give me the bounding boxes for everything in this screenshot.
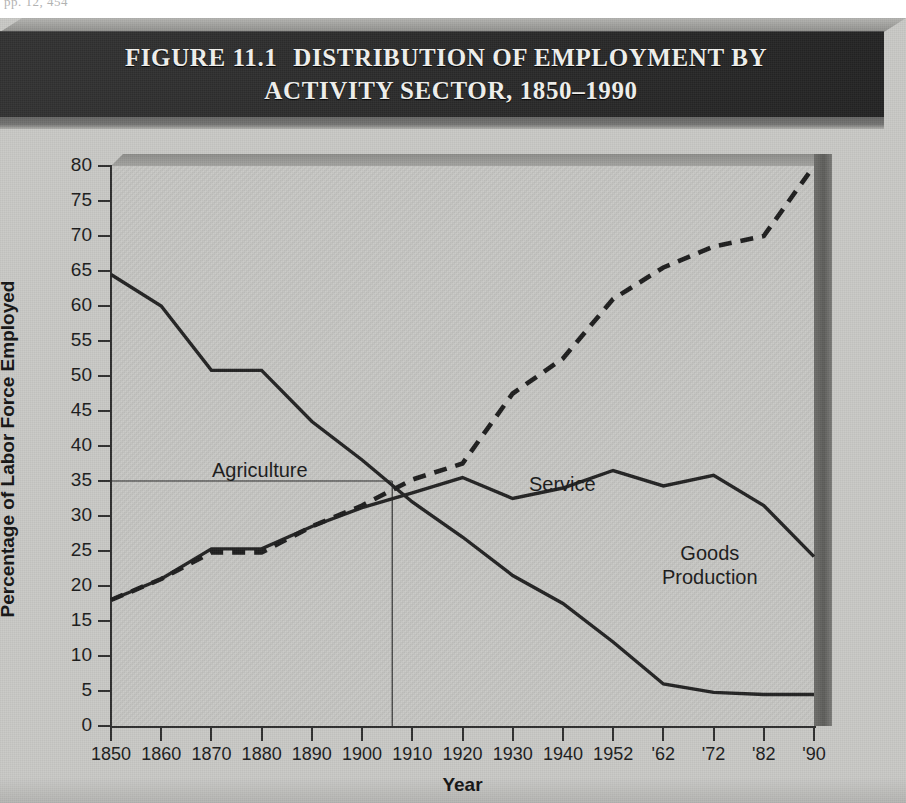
series-label-goods-line2: Production xyxy=(662,565,758,589)
chart-area: 05101520253035404550556065707580 1850186… xyxy=(14,138,890,778)
figure-title-bar: FIGURE 11.1DISTRIBUTION OF EMPLOYMENT BY… xyxy=(0,18,906,130)
series-line-agriculture xyxy=(111,275,814,695)
series-label-service: Service xyxy=(529,472,596,496)
page-margin-note: pp. 12, 454 xyxy=(4,0,68,10)
series-lines xyxy=(14,138,890,778)
figure-title-line-2: ACTIVITY SECTOR, 1850–1990 xyxy=(0,74,884,107)
series-label-goods-production: Goods Production xyxy=(662,541,758,589)
series-line-service xyxy=(111,166,814,600)
title-bevel xyxy=(0,18,906,32)
figure-number: FIGURE 11.1 xyxy=(125,44,277,71)
figure-title-line-1: DISTRIBUTION OF EMPLOYMENT BY xyxy=(293,44,767,71)
series-label-goods-line1: Goods xyxy=(662,541,758,565)
figure-panel: FIGURE 11.1DISTRIBUTION OF EMPLOYMENT BY… xyxy=(0,18,906,803)
title-drop-shadow xyxy=(0,117,884,129)
series-label-agriculture: Agriculture xyxy=(212,458,308,482)
title-slab: FIGURE 11.1DISTRIBUTION OF EMPLOYMENT BY… xyxy=(0,31,884,117)
